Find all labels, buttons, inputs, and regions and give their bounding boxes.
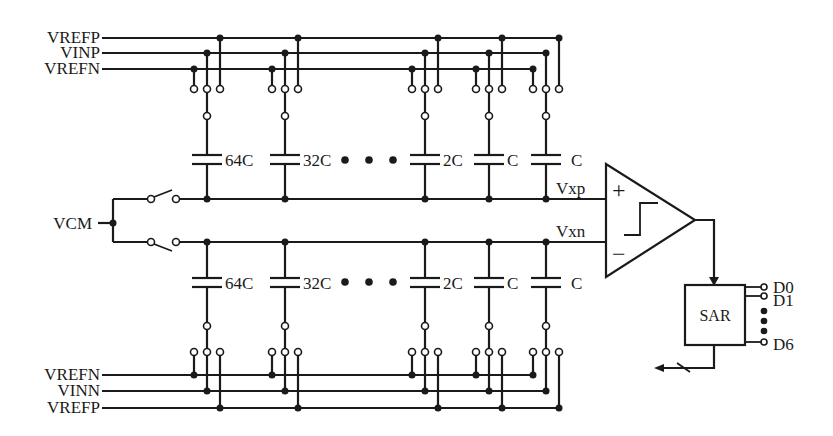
switch-terminal	[543, 86, 550, 93]
bottom-column-2	[409, 239, 442, 412]
cap-label-top-0: 64C	[225, 151, 253, 170]
bottom-column-1	[269, 239, 302, 412]
cap-label-bottom-2: 2C	[443, 274, 463, 293]
comparator-output-wire	[695, 220, 714, 280]
switch-terminal	[486, 349, 493, 356]
switch-terminal	[435, 86, 442, 93]
d6-terminal	[761, 339, 767, 345]
top-capacitor-labels: 64C 32C 2C C C	[225, 151, 582, 170]
switch-terminal	[204, 86, 211, 93]
cap-label-bottom-3: C	[507, 274, 518, 293]
switch-terminal	[435, 349, 442, 356]
switch-common-terminal	[282, 113, 289, 120]
switch-common-terminal	[543, 113, 550, 120]
sar-adc-schematic: VREFP VINP VREFN VREFN VINN VREFP 64C 32…	[0, 0, 833, 436]
switch-common-terminal	[422, 113, 429, 120]
switch-terminal	[282, 86, 289, 93]
top-column-4	[530, 35, 563, 203]
bottom-switch-array	[191, 239, 563, 412]
vcm-label: VCM	[53, 214, 92, 233]
cap-label-top-2: 2C	[443, 151, 463, 170]
sampling-switch-top	[148, 190, 180, 203]
bottom-ellipsis	[341, 278, 397, 286]
switch-terminal	[282, 349, 289, 356]
cap-label-top-1: 32C	[303, 151, 331, 170]
bottom-column-4	[530, 239, 563, 412]
switch-terminal	[204, 349, 211, 356]
output-label-d6: D6	[773, 335, 794, 354]
switch-terminal	[499, 349, 506, 356]
cap-label-top-4: C	[571, 151, 582, 170]
switch-terminal	[409, 86, 416, 93]
node-label-vxn: Vxn	[556, 222, 586, 241]
output-label-d1: D1	[773, 291, 794, 310]
switch-terminal	[269, 349, 276, 356]
switch-terminal	[486, 86, 493, 93]
d0-terminal	[761, 284, 767, 290]
switch-terminal	[217, 349, 224, 356]
rail-label-vrefn-top: VREFN	[44, 59, 100, 78]
switch-terminal	[409, 349, 416, 356]
switch-terminal	[269, 86, 276, 93]
top-column-2	[409, 35, 442, 203]
sampling-switch-bottom	[148, 239, 180, 252]
top-column-0	[191, 35, 224, 203]
switch-terminal	[530, 349, 537, 356]
comparator: + −	[606, 164, 695, 277]
switch-terminal	[191, 349, 198, 356]
cap-label-bottom-1: 32C	[303, 274, 331, 293]
top-column-3	[473, 35, 506, 203]
switch-terminal	[556, 86, 563, 93]
sar-label: SAR	[699, 307, 730, 324]
top-column-1	[269, 35, 302, 203]
switch-terminal	[295, 86, 302, 93]
switch-terminal	[499, 86, 506, 93]
switch-common-terminal	[486, 113, 493, 120]
comparator-plus-sign: +	[612, 177, 626, 203]
switch-terminal	[422, 86, 429, 93]
control-bus-wire	[662, 345, 714, 368]
switch-terminal	[191, 86, 198, 93]
cap-label-bottom-4: C	[571, 274, 582, 293]
switch-common-terminal	[486, 323, 493, 330]
switch-terminal	[543, 349, 550, 356]
rail-label-vrefp-bottom: VREFP	[47, 398, 100, 417]
switch-common-terminal	[543, 323, 550, 330]
switch-common-terminal	[282, 323, 289, 330]
switch-terminal	[473, 349, 480, 356]
switch-common-terminal	[204, 113, 211, 120]
switch-terminal	[422, 349, 429, 356]
switch-terminal	[295, 349, 302, 356]
switch-terminal	[217, 86, 224, 93]
switch-common-terminal	[422, 323, 429, 330]
comparator-minus-sign: −	[612, 241, 626, 267]
d1-terminal	[761, 293, 767, 299]
output-ellipsis	[761, 308, 768, 335]
arrow-left-icon	[654, 364, 664, 372]
switch-common-terminal	[204, 323, 211, 330]
bottom-capacitor-labels: 64C 32C 2C C C	[225, 274, 582, 293]
switch-terminal	[473, 86, 480, 93]
top-switch-array	[191, 35, 563, 203]
bottom-column-3	[473, 239, 506, 412]
node-label-vxp: Vxp	[556, 179, 585, 198]
bottom-column-0	[191, 239, 224, 412]
cap-label-top-3: C	[507, 151, 518, 170]
top-ellipsis	[341, 156, 397, 164]
switch-terminal	[530, 86, 537, 93]
switch-terminal	[556, 349, 563, 356]
cap-label-bottom-0: 64C	[225, 274, 253, 293]
